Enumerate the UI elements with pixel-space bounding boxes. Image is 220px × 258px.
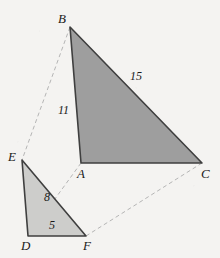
vertex-label-c: C: [201, 167, 210, 180]
side-label-ab: 11: [58, 104, 69, 116]
dashed-line-b-e: [22, 27, 70, 160]
geometry-figure: B A C E D F 11 15 8 5: [0, 0, 220, 258]
side-label-ef: 8: [44, 191, 50, 203]
figure-canvas: [0, 0, 220, 258]
side-label-df: 5: [49, 219, 55, 231]
triangle-abc: [70, 27, 202, 163]
vertex-label-a: A: [77, 167, 85, 180]
vertex-label-d: D: [21, 239, 30, 252]
vertex-label-f: F: [83, 239, 91, 252]
dashed-line-c-f: [86, 163, 202, 236]
side-label-bc: 15: [130, 70, 142, 82]
vertex-label-e: E: [8, 150, 16, 163]
vertex-label-b: B: [58, 12, 66, 25]
